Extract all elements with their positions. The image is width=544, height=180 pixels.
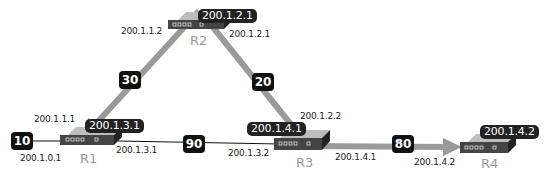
- cost-badge-ext-r1: 10: [11, 132, 33, 150]
- ip-label-r2-r3: 200.1.2.1: [229, 29, 270, 39]
- ip-label-r4-r3: 200.1.4.2: [414, 157, 455, 167]
- ip-label-r1-r3: 200.1.3.1: [116, 145, 157, 155]
- ip-label-r3-r1: 200.1.3.2: [228, 148, 269, 158]
- cost-badge-r1-r3: 90: [183, 135, 205, 153]
- router-name-r1: R1: [80, 151, 97, 166]
- router-tag-r2: 200.1.2.1: [198, 9, 257, 23]
- ip-label-r1-ext: 200.1.0.1: [20, 153, 61, 163]
- ip-label-r2-r1: 200.1.1.2: [121, 26, 162, 36]
- router-tag-r1: 200.1.3.1: [85, 119, 144, 133]
- cost-badge-r3-r4: 80: [392, 135, 414, 153]
- router-tag-r4: 200.1.4.2: [480, 125, 539, 139]
- router-tag-r3: 200.1.4.1: [247, 122, 306, 136]
- path-r3-r4: [305, 146, 448, 147]
- router-name-r3: R3: [296, 155, 313, 170]
- network-topology-diagram: R1 R2 R3 R4 200.1.3.1 200.1.2.1 200.1.4.…: [0, 0, 544, 180]
- ip-label-r3-r4: 200.1.4.1: [335, 152, 376, 162]
- ip-label-r3-r2: 200.1.2.2: [300, 111, 341, 121]
- cost-badge-r1-r2: 30: [119, 71, 141, 89]
- cost-badge-r2-r3: 20: [252, 73, 274, 91]
- router-name-r4: R4: [481, 156, 498, 171]
- ip-label-r1-r2: 200.1.1.1: [34, 114, 75, 124]
- router-name-r2: R2: [190, 33, 207, 48]
- arrowhead-r4: [443, 138, 462, 156]
